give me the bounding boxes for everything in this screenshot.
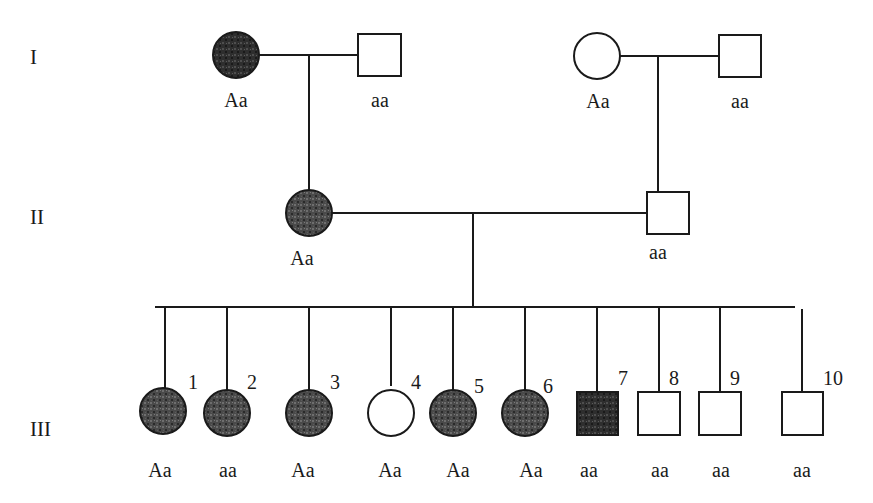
generation-label-I: I [30,45,37,69]
affected-male-III-7 [577,392,618,435]
affected-female-III-5 [430,390,476,436]
genotype-III-10: aa [793,459,811,481]
unaffected-female-I-3 [574,33,620,79]
individual-number: 5 [474,375,484,397]
unaffected-male-I-2 [358,34,401,76]
individual-number: 8 [669,367,679,389]
individual-number: 10 [823,367,843,389]
genotype-III-8: aa [651,459,669,481]
genotype-I-1: Aa [224,89,247,111]
affected-female-III-3 [286,390,332,436]
unaffected-male-II-2 [647,192,689,234]
couple-I-left: Aa aa [213,32,401,190]
generation-III: 1 Aa 2 aa 3 Aa 4 Aa 5 Aa 6 Aa 7 aa [140,307,843,481]
individual-number: 2 [247,371,257,393]
genotype-III-7: aa [580,459,598,481]
genotype-I-3: Aa [586,90,609,112]
genotype-III-9: aa [712,459,730,481]
unaffected-male-III-10 [782,392,823,435]
individual-number: 7 [618,367,628,389]
individual-number: 9 [730,367,740,389]
affected-female-III-1 [140,388,186,434]
individual-number: 3 [330,371,340,393]
genotype-III-4: Aa [378,459,401,481]
unaffected-female-III-4 [368,390,414,436]
genotype-III-5: Aa [446,459,469,481]
pedigree-chart: I II III Aa aa Aa aa Aa aa 1 Aa [0,0,873,503]
individual-number: 1 [188,371,198,393]
unaffected-male-III-9 [699,392,741,435]
couple-II: Aa aa [286,190,689,307]
genotype-III-2: aa [219,459,237,481]
individual-number: 6 [543,375,553,397]
genotype-II-1: Aa [290,247,313,269]
genotype-III-1: Aa [148,459,171,481]
genotype-I-2: aa [371,89,389,111]
affected-female-I-1 [213,32,259,78]
affected-female-III-2 [204,390,250,436]
affected-female-III-6 [502,390,548,436]
generation-label-II: II [30,205,44,229]
genotype-III-3: Aa [291,459,314,481]
couple-I-right: Aa aa [574,33,761,192]
genotype-III-6: Aa [519,459,542,481]
generation-label-III: III [30,417,51,441]
unaffected-male-I-4 [719,35,761,77]
genotype-I-4: aa [731,90,749,112]
unaffected-male-III-8 [638,392,680,435]
genotype-II-2: aa [649,241,667,263]
affected-female-II-1 [286,190,332,236]
individual-number: 4 [411,371,421,393]
